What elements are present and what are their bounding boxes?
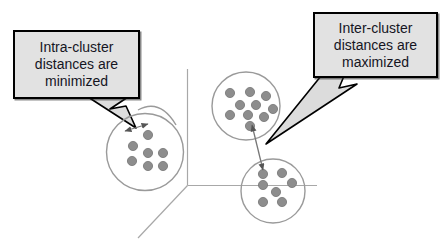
clustering-diagram: Intra-cluster distances are minimized In… [0,0,448,251]
cluster-dot [158,148,167,157]
cluster-dot [268,104,277,113]
intra-callout-line-2: distances are [15,56,138,73]
cluster-dot [277,168,286,177]
intra-callout-tail [88,97,136,128]
cluster-dot [245,87,254,96]
top-cluster [212,72,280,140]
cluster-dot [143,161,152,170]
cluster-dot [243,110,252,119]
cluster-dot [259,112,268,121]
cluster-dot [158,161,167,170]
inter-callout-line-2: distances are [315,37,436,54]
cluster-dot [261,91,270,100]
intra-cluster-distance-arrow [125,124,148,131]
cluster-dot [277,197,286,206]
intra-cluster-callout: Intra-cluster distances are minimized [13,30,140,99]
diagonal-axis [138,186,188,239]
cluster-dot [143,148,152,157]
cluster-dot [251,100,260,109]
inter-callout-line-3: maximized [315,54,436,71]
intra-callout-line-1: Intra-cluster [15,39,138,56]
bottom-cluster [241,159,305,223]
cluster-dot [287,178,296,187]
cluster-dot [225,88,234,97]
intra-callout-line-3: minimized [15,73,138,90]
cluster-dot [225,110,234,119]
cluster-dot [258,197,267,206]
cluster-dot [127,156,136,165]
inter-callout-line-1: Inter-cluster [315,20,436,37]
cluster-dot [143,130,152,139]
cluster-dot [271,187,280,196]
cluster-dot [258,180,267,189]
cluster-dot [235,100,244,109]
inter-cluster-callout: Inter-cluster distances are maximized [313,12,438,78]
cluster-dot [258,169,267,178]
cluster-dot [128,141,137,150]
